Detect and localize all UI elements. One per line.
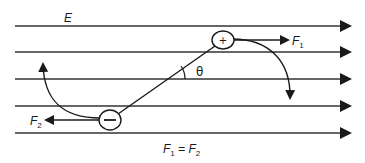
dipole-axis xyxy=(118,46,215,114)
equation-label: F1 = F2 xyxy=(163,142,201,158)
force-f2-label: F2 xyxy=(30,114,42,130)
positive-charge: + xyxy=(212,31,234,49)
plus-sign: + xyxy=(219,35,227,46)
negative-charge xyxy=(99,110,121,130)
field-label: E xyxy=(64,11,73,25)
angle-label: θ xyxy=(196,65,203,79)
rotation-arrow-counterclockwise xyxy=(43,64,100,118)
force-f1-label: F1 xyxy=(292,34,304,50)
dipole-diagram: E θ F1 F2 + F1 = F2 xyxy=(0,0,365,163)
rotation-arrow-clockwise xyxy=(232,39,290,98)
